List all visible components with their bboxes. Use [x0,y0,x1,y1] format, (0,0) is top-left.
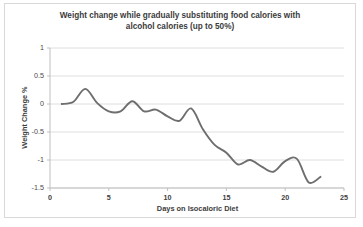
x-axis-tick-label: 25 [329,193,359,202]
y-axis-tick-label: -1.5 [10,183,44,192]
y-axis-title: Weight Change % [20,73,29,163]
x-axis-tick-label: 20 [270,193,300,202]
chart-figure: Weight change while gradually substituti… [0,0,363,227]
x-axis-tick-label: 10 [153,193,183,202]
x-axis-tick-label: 15 [211,193,241,202]
data-line-weight-change [62,89,321,183]
x-axis-tick-label: 0 [35,193,65,202]
x-axis-tick-label: 5 [94,193,124,202]
y-axis-tick-label: 1 [10,43,44,52]
x-axis-title: Days on Isocaloric Diet [50,204,345,213]
